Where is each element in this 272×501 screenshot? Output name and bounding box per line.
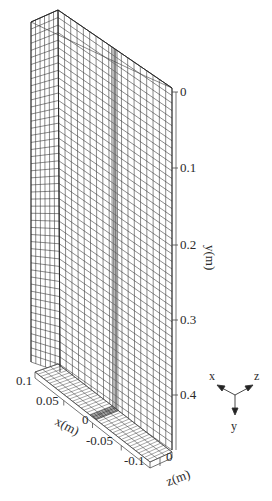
x-tick-1: 0.05 — [36, 393, 59, 408]
x-tick-0: 0.1 — [16, 373, 32, 388]
y-axis-label: y(m) — [203, 245, 218, 270]
y-tick-3: 0.3 — [180, 312, 196, 327]
y-tick-0: 0 — [180, 84, 187, 99]
z-axis-label: z(m) — [164, 466, 192, 488]
z-arrow-icon — [245, 385, 253, 391]
triad-z-label: z — [254, 369, 259, 383]
x-arrow-icon — [217, 385, 225, 391]
mesh-figure: 00.10.20.30.4 y(m) 0.1 0.05 0 -0.05 -0.1… — [0, 0, 272, 501]
y-tick-1: 0.1 — [180, 160, 196, 175]
y-arrow-icon — [232, 408, 238, 415]
y-axis: 00.10.20.30.4 y(m) — [172, 84, 218, 450]
z-tick-0: 0 — [166, 449, 173, 464]
triad-x-label: x — [209, 369, 215, 383]
x-tick-2: 0 — [82, 412, 89, 427]
x-axis-label: x(m) — [53, 413, 82, 438]
coordinate-triad: x z y — [209, 369, 259, 433]
triad-y-label: y — [231, 419, 237, 433]
z-axis: 0 z(m) — [164, 449, 192, 489]
x-tick-3: -0.05 — [86, 433, 113, 448]
x-tick-4: -0.1 — [124, 453, 145, 468]
y-tick-4: 0.4 — [180, 387, 197, 402]
y-tick-2: 0.2 — [180, 237, 196, 252]
